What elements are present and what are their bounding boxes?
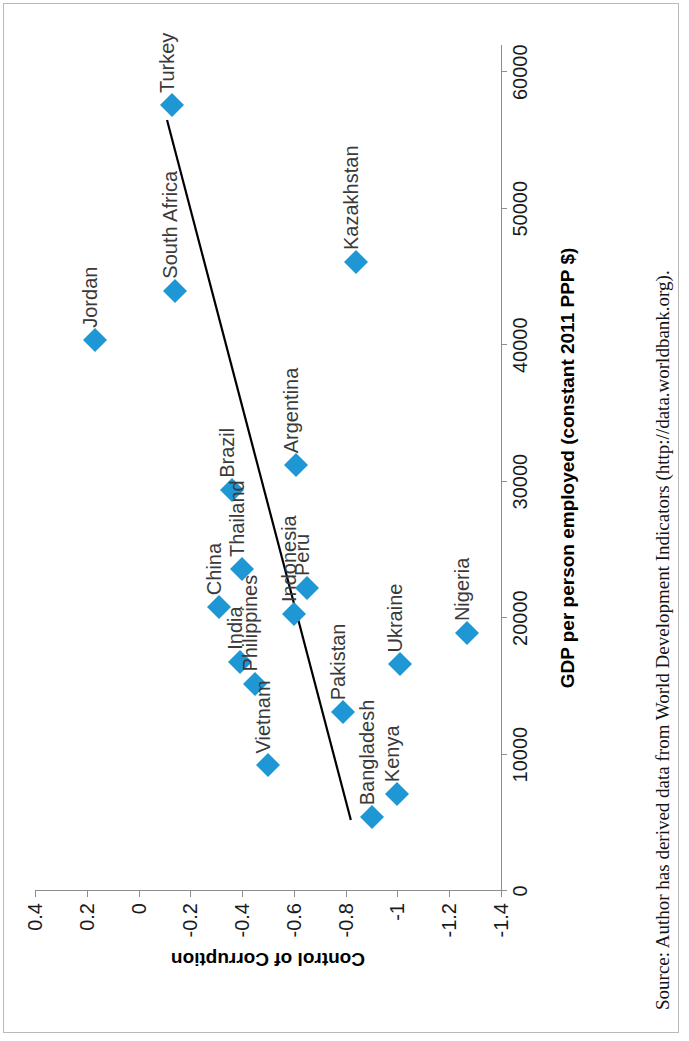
data-point-marker [83,328,107,352]
data-points: TurkeySouth AfricaJordanKazakhstanBrazil… [17,0,637,983]
data-point-marker [284,453,308,477]
data-point-label: Kenya [381,725,404,782]
data-point-label: Philippines [239,575,262,672]
y-axis-title: Control of Corruption [171,948,365,970]
figure-page: 0100002000030000400005000060000 0.40.20-… [0,0,689,1041]
x-axis-title: GDP per person employed (constant 2011 P… [557,248,579,689]
data-point-marker [455,621,479,645]
data-point-label: Brazil [216,428,239,478]
scatter-chart: 0100002000030000400005000060000 0.40.20-… [17,0,637,983]
data-point-label: Peru [291,534,314,576]
data-point-label: Jordan [79,267,102,328]
data-point-marker [344,250,368,274]
data-point-label: Thailand [226,480,249,557]
data-point-label: China [203,543,226,595]
data-point-marker [331,700,355,724]
data-point-marker [163,279,187,303]
data-point-label: Argentina [280,368,303,454]
data-point-label: Bangladesh [356,700,379,806]
source-caption: Source: Author has derived data from Wor… [652,30,674,1010]
data-point-marker [385,782,409,806]
rotated-figure-wrapper: 0100002000030000400005000060000 0.40.20-… [17,0,637,983]
data-point-label: Turkey [156,33,179,93]
data-point-marker [256,753,280,777]
data-point-label: Ukraine [384,584,407,653]
data-point-label: Nigeria [451,558,474,621]
data-point-marker [388,652,412,676]
data-point-label: Vietnam [252,680,275,753]
data-point-marker [160,93,184,117]
data-point-marker [360,805,384,829]
data-point-label: South Africa [159,171,182,279]
data-point-label: Pakistan [327,624,350,701]
data-point-label: Kazakhstan [340,145,363,250]
data-point-marker [282,602,306,626]
